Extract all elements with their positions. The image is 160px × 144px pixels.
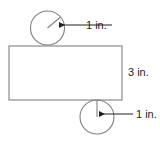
rectangle-height-label: 3 in.	[128, 66, 149, 78]
geometry-figure: 1 in. 3 in. 1 in.	[0, 0, 160, 144]
top-circle-radius-line	[48, 18, 61, 29]
rectangle	[9, 46, 122, 100]
bottom-radius-label: 1 in.	[136, 108, 157, 120]
figure-canvas: 1 in. 3 in. 1 in.	[0, 0, 160, 144]
top-radius-label: 1 in.	[86, 19, 107, 31]
